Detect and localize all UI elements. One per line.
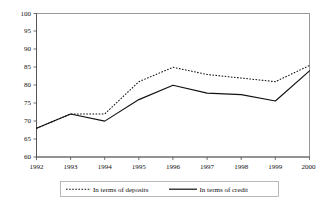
y-tick-label-65: 65 — [24, 135, 32, 143]
y-tick-label-75: 75 — [24, 99, 32, 107]
x-tick-label-1996: 1996 — [166, 163, 181, 171]
y-tick-label-90: 90 — [24, 45, 32, 53]
x-tick-label-1992: 1992 — [30, 163, 45, 171]
y-tick-label-70: 70 — [24, 117, 32, 125]
legend-label-credit: In terms of credit — [200, 186, 248, 194]
y-tick-label-100: 100 — [21, 10, 32, 18]
x-axis-tick-labels: 1992 1993 1994 1995 1996 1997 1998 1999 … — [30, 163, 317, 171]
legend: In terms of deposits In terms of credit — [61, 182, 279, 197]
chart-figure: 60 65 70 75 80 85 90 95 100 — [0, 0, 332, 202]
y-tick-label-80: 80 — [24, 81, 32, 89]
x-tick-label-2000: 2000 — [302, 163, 317, 171]
x-tick-label-1999: 1999 — [268, 163, 283, 171]
x-tick-label-1994: 1994 — [98, 163, 113, 171]
line-chart: 60 65 70 75 80 85 90 95 100 — [0, 0, 332, 202]
y-tick-label-85: 85 — [24, 63, 32, 71]
x-tick-label-1997: 1997 — [200, 163, 215, 171]
x-tick-label-1993: 1993 — [64, 163, 79, 171]
legend-label-deposits: In terms of deposits — [93, 186, 149, 194]
chart-background — [0, 0, 332, 202]
x-tick-label-1998: 1998 — [234, 163, 249, 171]
y-tick-label-95: 95 — [24, 27, 32, 35]
y-tick-label-60: 60 — [24, 153, 32, 161]
x-tick-label-1995: 1995 — [132, 163, 147, 171]
